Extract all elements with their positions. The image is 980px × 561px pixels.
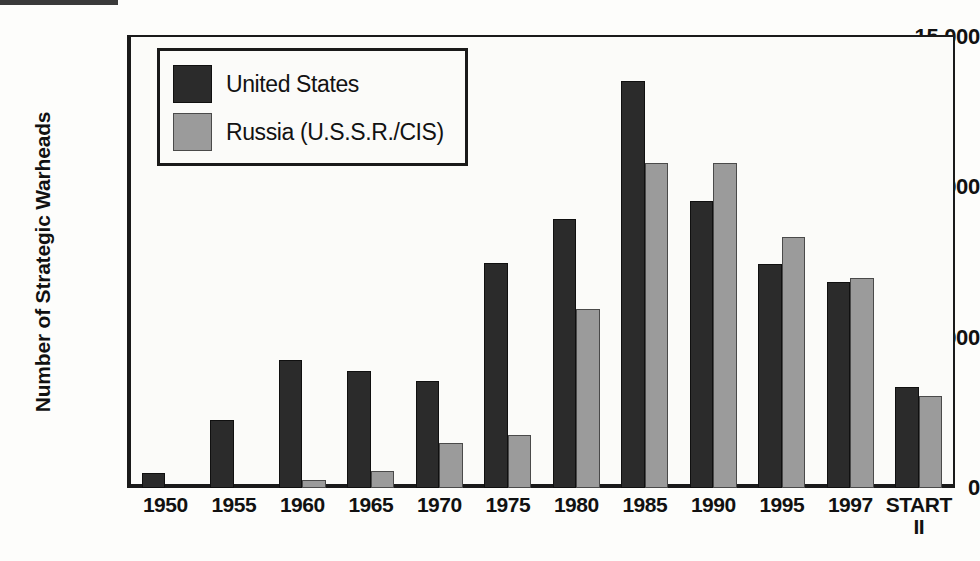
bar [210, 420, 234, 488]
legend-swatch-united-states [173, 65, 212, 103]
scan-artifact-strip [0, 0, 118, 5]
x-tick-label: 1990 [679, 494, 748, 516]
x-tick-label: 1970 [405, 494, 474, 516]
bar [621, 81, 645, 488]
bar [895, 387, 919, 488]
bar [850, 278, 874, 488]
x-tick-label: 1980 [542, 494, 611, 516]
bar [645, 163, 669, 488]
x-tick-label: 1950 [131, 494, 200, 516]
legend-label-united-states: United States [226, 71, 359, 98]
bar [439, 443, 463, 488]
bar-group [679, 37, 748, 488]
bar [142, 473, 166, 488]
bar [279, 360, 303, 488]
bar [508, 435, 532, 488]
x-tick-label: 1985 [611, 494, 680, 516]
bar [827, 282, 851, 488]
bar-group [474, 37, 543, 488]
bar-group [542, 37, 611, 488]
bar [553, 219, 577, 488]
legend-swatch-russia [173, 113, 212, 151]
bar [758, 264, 782, 488]
bar [919, 396, 943, 488]
y-axis-title: Number of Strategic Warheads [31, 47, 55, 477]
bar-group [748, 37, 817, 488]
x-tick-label: 1965 [337, 494, 406, 516]
bar-group [611, 37, 680, 488]
x-tick-label: 1975 [474, 494, 543, 516]
bar [371, 471, 395, 488]
chart-page: Number of Strategic Warheads 05,00010,00… [0, 0, 980, 561]
legend-item-united-states: United States [173, 60, 465, 108]
bar [302, 480, 326, 488]
bar [690, 201, 714, 488]
bar [347, 371, 371, 488]
bar [484, 263, 508, 489]
x-tick-label: 1995 [748, 494, 817, 516]
bar [713, 163, 737, 488]
bar-group [885, 37, 954, 488]
bar [416, 381, 440, 488]
bar-group [816, 37, 885, 488]
legend-item-russia: Russia (U.S.S.R./CIS) [173, 108, 465, 156]
bar [782, 237, 806, 488]
x-tick-label: START II [885, 494, 954, 538]
bar [576, 309, 600, 488]
x-tick-label: 1960 [268, 494, 337, 516]
legend-label-russia: Russia (U.S.S.R./CIS) [226, 119, 444, 146]
chart-legend: United States Russia (U.S.S.R./CIS) [157, 48, 468, 166]
x-tick-label: 1955 [200, 494, 269, 516]
x-tick-label: 1997 [816, 494, 885, 516]
